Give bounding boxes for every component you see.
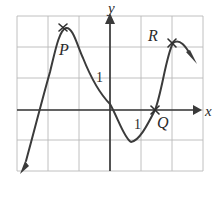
point-label-q: Q (157, 114, 169, 131)
x-unit-label: 1 (134, 117, 141, 132)
graph-canvas: y x 1 1 P Q R (0, 0, 216, 197)
y-axis-label: y (106, 0, 115, 16)
x-axis-label: x (204, 103, 212, 119)
point-label-p: P (58, 41, 69, 58)
y-unit-label: 1 (96, 70, 103, 85)
curve-left-arrowhead (20, 161, 29, 174)
polynomial-curve (20, 28, 197, 174)
point-label-r: R (147, 27, 158, 44)
x-axis-arrowhead (193, 105, 202, 115)
curve-right-arrowhead (186, 50, 197, 64)
math-graph-figure: y x 1 1 P Q R (0, 0, 216, 197)
curve-path (26, 28, 190, 161)
